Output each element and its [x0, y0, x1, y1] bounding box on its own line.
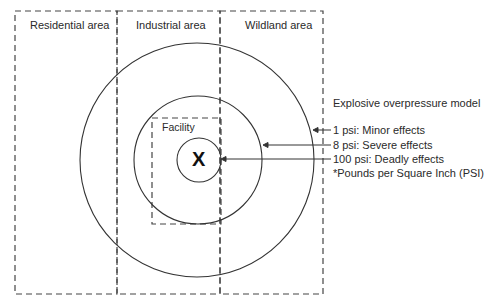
- zone-label-wildland: Wildland area: [245, 19, 312, 32]
- zone-box-residential: [15, 11, 117, 294]
- arrowhead-1psi: [313, 128, 318, 133]
- arrowhead-100psi: [221, 157, 226, 162]
- legend-item-1psi: 1 psi: Minor effects: [333, 124, 425, 137]
- legend-item-8psi: 8 psi: Severe effects: [333, 139, 432, 152]
- zone-box-wildland: [220, 11, 323, 294]
- zone-label-industrial: Industrial area: [136, 19, 206, 32]
- legend-item-100psi: 100 psi: Deadly effects: [333, 153, 444, 166]
- legend-footnote: *Pounds per Square Inch (PSI): [333, 167, 484, 180]
- legend-title: Explosive overpressure model: [333, 97, 480, 110]
- explosion-center-mark: X: [192, 149, 205, 169]
- facility-label: Facility: [162, 121, 195, 134]
- zone-label-residential: Residential area: [30, 19, 110, 32]
- arrowhead-8psi: [263, 143, 268, 148]
